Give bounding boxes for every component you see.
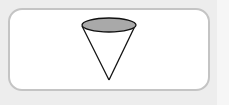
cone-top-ellipse bbox=[82, 18, 136, 32]
cone-side-left bbox=[82, 26, 109, 80]
cone-diagram bbox=[0, 0, 229, 105]
cone-side-right bbox=[109, 26, 135, 80]
